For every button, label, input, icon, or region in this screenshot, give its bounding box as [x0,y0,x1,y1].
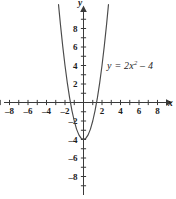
x-tick-label: 4 [118,106,123,116]
x-axis-group: –8–6–4–22468 x [0,98,173,116]
x-tick-label: 8 [155,106,160,116]
y-tick-label: –8 [68,172,79,182]
y-tick-label: –6 [68,153,79,163]
x-axis-label: x [167,98,173,108]
equation-annotation: y = 2x2 – 4 [107,59,153,71]
x-tick-label: –4 [41,106,52,116]
y-tick-label: 8 [73,24,78,34]
x-tick-label: 6 [137,106,142,116]
y-tick-label: –2 [68,116,79,126]
x-tick-label: –8 [4,106,15,116]
y-tick-label: –4 [68,135,79,145]
y-axis-label: y [77,0,83,8]
equation-tail: – 4 [137,60,153,71]
x-tick-label: 2 [100,106,105,116]
y-tick-label: 4 [73,61,78,71]
y-axis-group: –8–6–4–22468 y [68,0,87,195]
x-tick-label: –2 [60,106,71,116]
parabola-graph-figure: –8–6–4–22468 x –8–6–4–22468 y y = 2x2 – … [0,0,176,199]
y-tick-label: 2 [73,79,78,89]
y-tick-label: 6 [73,42,78,52]
coordinate-plane-svg: –8–6–4–22468 x –8–6–4–22468 y [0,0,176,199]
equation-lead: y = 2x [107,60,134,71]
x-tick-label: –6 [23,106,34,116]
x-axis-tick-labels: –8–6–4–22468 [4,106,160,116]
